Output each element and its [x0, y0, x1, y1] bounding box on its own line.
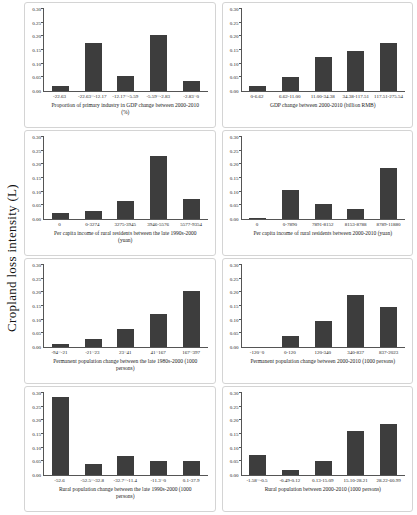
- y-tick-mark: [41, 22, 44, 23]
- bar: [85, 211, 102, 219]
- bar: [249, 455, 266, 476]
- x-category-label: -22.63: [43, 94, 76, 100]
- y-tick-mark: [239, 136, 242, 137]
- y-tick-label: 0.25: [32, 276, 41, 281]
- y-tick-label: 0.30: [32, 391, 41, 396]
- bar: [380, 43, 397, 91]
- bar-slot: [340, 9, 373, 91]
- bar: [347, 209, 364, 219]
- y-tick-mark: [239, 177, 242, 178]
- y-tick-label: 0.05: [32, 75, 41, 80]
- y-tick-mark: [239, 204, 242, 205]
- y-tick-label: 0.15: [230, 432, 239, 437]
- bar-slot: [77, 9, 110, 91]
- y-tick-label: 0.00: [230, 217, 239, 222]
- y-tick-mark: [41, 291, 44, 292]
- chart-panel-4: 0.000.050.100.150.200.250.3000-78907891-…: [222, 130, 414, 256]
- y-tick-mark: [239, 291, 242, 292]
- bar: [282, 77, 299, 91]
- plot-wrap: 0.000.050.100.150.200.250.30: [226, 265, 406, 348]
- y-tick-label: 0.30: [230, 135, 239, 140]
- x-category-labels: -120~00-120120-340340-837837-2023: [241, 350, 406, 356]
- x-axis-title: Per capita income of rural residents bet…: [241, 230, 406, 237]
- bar: [315, 461, 332, 475]
- x-category-label: -12.17~-5.59: [109, 94, 142, 100]
- bar-slot: [340, 137, 373, 219]
- y-tick-label: 0.10: [230, 445, 239, 450]
- y-tick-mark: [41, 191, 44, 192]
- x-category-label: -22.63~-12.17: [76, 94, 109, 100]
- chart-panel-2: 0.000.050.100.150.200.250.300-6.626.62-1…: [222, 2, 414, 128]
- y-tick-mark: [41, 433, 44, 434]
- bar-slot: [307, 9, 340, 91]
- y-tick-mark: [239, 332, 242, 333]
- bar-slot: [372, 9, 405, 91]
- bar-slot: [175, 393, 208, 475]
- x-axis-title: Permanent population change between the …: [43, 358, 208, 372]
- x-category-labels: -22.63-22.63~-12.17-12.17~-5.59-5.59~-2.…: [43, 94, 208, 100]
- y-tick-mark: [239, 278, 242, 279]
- y-tick-mark: [41, 177, 44, 178]
- bar-slot: [340, 265, 373, 347]
- y-tick-label: 0.10: [230, 317, 239, 322]
- bar-slot: [175, 265, 208, 347]
- chart-panel-6: 0.000.050.100.150.200.250.30-120~00-1201…: [222, 258, 414, 384]
- x-category-label: -1.58~-0.5: [241, 478, 274, 484]
- x-category-label: 117.51-275.54: [372, 94, 405, 100]
- y-tick-label: 0.20: [230, 418, 239, 423]
- y-tick-mark: [41, 278, 44, 279]
- y-tick-mark: [41, 35, 44, 36]
- y-tick-label: 0.25: [32, 20, 41, 25]
- y-tick-label: 0.05: [230, 203, 239, 208]
- bar-slot: [109, 9, 142, 91]
- chart-panel-5: 0.000.050.100.150.200.250.30-94~-21-21~2…: [24, 258, 216, 384]
- y-tick-label: 0.00: [230, 345, 239, 350]
- y-tick-mark: [239, 460, 242, 461]
- bar: [282, 190, 299, 219]
- bar: [347, 431, 364, 475]
- y-tick-label: 0.30: [230, 7, 239, 12]
- x-category-labels: 00-78907891-81528153-87888789-11880: [241, 222, 406, 228]
- bar-slot: [142, 9, 175, 91]
- bar-slot: [44, 137, 77, 219]
- x-category-label: 28.22-60.99: [372, 478, 405, 484]
- x-category-label: 8153-8788: [339, 222, 372, 228]
- x-category-label: 6.62-11.00: [273, 94, 306, 100]
- y-tick-label: 0.10: [230, 189, 239, 194]
- x-axis-title: Permanent population change between 2000…: [241, 358, 406, 365]
- x-axis-title: Rural population between 2000-2010 (1000…: [241, 486, 406, 493]
- y-tick-mark: [239, 406, 242, 407]
- x-category-labels: -94~-21-21~2323~4141~167167~397: [43, 350, 208, 356]
- bar-slot: [274, 137, 307, 219]
- bar-slot: [175, 9, 208, 91]
- y-tick-mark: [239, 150, 242, 151]
- x-category-label: 0-6.62: [241, 94, 274, 100]
- bar: [282, 336, 299, 347]
- y-tick-label: 0.25: [32, 148, 41, 153]
- y-axis-label-text: Cropland loss intensity (L): [4, 184, 20, 332]
- bar: [183, 199, 200, 220]
- y-tick-label: 0.20: [230, 34, 239, 39]
- bar-slot: [242, 393, 275, 475]
- y-tick-label: 0.15: [32, 48, 41, 53]
- x-axis-title: Rural population change between the late…: [43, 486, 208, 500]
- x-category-label: 34.38-117.51: [339, 94, 372, 100]
- y-tick-label: 0.25: [32, 404, 41, 409]
- x-axis-title: GDP change between 2000-2010 (billion RM…: [241, 102, 406, 109]
- x-category-label: 3946-5576: [142, 222, 175, 228]
- x-category-label: 7891-8152: [306, 222, 339, 228]
- y-tick-mark: [41, 319, 44, 320]
- x-category-label: 0.1-37.9: [175, 478, 208, 484]
- x-category-label: 0-3274: [76, 222, 109, 228]
- plot-area: [241, 393, 406, 476]
- bar: [85, 464, 102, 475]
- x-category-label: 0-120: [273, 350, 306, 356]
- x-category-label: 23~41: [109, 350, 142, 356]
- x-category-label: -11.3~0: [142, 478, 175, 484]
- bar: [347, 51, 364, 91]
- bar: [150, 461, 167, 475]
- y-tick-label: 0.00: [230, 473, 239, 478]
- y-tick-mark: [239, 163, 242, 164]
- y-tick-mark: [239, 8, 242, 9]
- x-category-labels: 00-32743275-39453946-55765577-9354: [43, 222, 208, 228]
